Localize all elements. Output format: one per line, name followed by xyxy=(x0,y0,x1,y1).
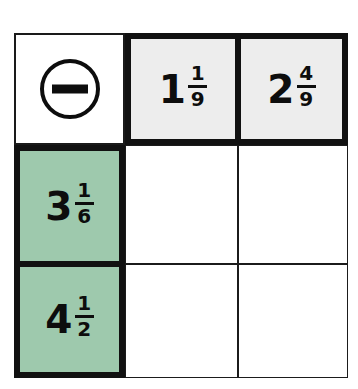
mixed-number: 3 1 6 xyxy=(45,183,94,230)
answer-cell-r1c2[interactable] xyxy=(238,145,348,264)
numerator: 1 xyxy=(77,293,91,314)
whole-number: 1 xyxy=(159,70,186,109)
whole-number: 3 xyxy=(45,187,72,226)
fraction: 1 6 xyxy=(75,180,94,227)
mixed-number: 4 1 2 xyxy=(45,296,94,343)
fraction: 4 9 xyxy=(297,63,316,110)
whole-number: 2 xyxy=(267,70,294,109)
answer-cell-r2c1[interactable] xyxy=(125,264,238,378)
column-header-1: 1 1 9 xyxy=(125,33,238,145)
mixed-number: 2 4 9 xyxy=(267,66,316,113)
numerator: 1 xyxy=(191,63,205,84)
denominator: 2 xyxy=(77,319,91,340)
fraction: 1 2 xyxy=(75,293,94,340)
answer-cell-r2c2[interactable] xyxy=(238,264,348,378)
mixed-number: 1 1 9 xyxy=(159,66,208,113)
denominator: 9 xyxy=(191,89,205,110)
answer-cell-r1c1[interactable] xyxy=(125,145,238,264)
numerator: 1 xyxy=(77,180,91,201)
denominator: 9 xyxy=(299,89,313,110)
column-header-2: 2 4 9 xyxy=(238,33,348,145)
row-header-1: 3 1 6 xyxy=(14,145,125,264)
fraction: 1 9 xyxy=(188,63,207,110)
numerator: 4 xyxy=(299,63,313,84)
minus-circle-icon xyxy=(38,57,102,121)
row-header-2: 4 1 2 xyxy=(14,264,125,378)
denominator: 6 xyxy=(77,206,91,227)
whole-number: 4 xyxy=(45,300,72,339)
operator-cell xyxy=(14,33,125,145)
subtraction-grid-worksheet: 1 1 9 2 4 9 3 xyxy=(0,0,358,389)
operation-grid: 1 1 9 2 4 9 3 xyxy=(14,33,348,378)
